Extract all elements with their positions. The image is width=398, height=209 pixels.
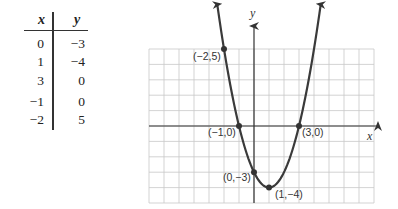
x-axis-label: x [366,129,373,143]
y-axis-label: y [249,6,256,20]
point-label: (0,−3) [223,171,251,183]
parabola-graph: y x (−2,5) (−1,0) (0,−3) (1,−4) (3,0) [0,0,398,209]
data-point [266,185,272,191]
data-points [221,46,302,191]
data-point [236,123,242,129]
point-label: (1,−4) [275,188,303,200]
point-label: (3,0) [302,126,324,138]
data-point [221,46,227,52]
point-label: (−1,0) [208,126,236,138]
point-label: (−2,5) [193,50,221,62]
data-point [251,169,257,175]
